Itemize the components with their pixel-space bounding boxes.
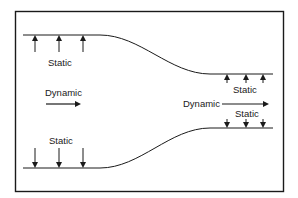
static-pressure-arrows-upper-right — [227, 77, 263, 83]
lower-wall-line — [23, 128, 273, 168]
diagram-frame — [16, 12, 284, 192]
static-pressure-arrows-lower-left — [35, 148, 83, 165]
static-label-lower-right: Static — [235, 108, 259, 119]
dynamic-label-right: Dynamic — [183, 98, 220, 109]
upper-wall-line — [23, 35, 273, 74]
static-label-upper-right: Static — [233, 84, 257, 95]
static-pressure-arrows-upper-left — [35, 38, 83, 52]
static-label-lower-left: Static — [49, 135, 73, 146]
venturi-diagram: Static Dynamic Static Dynamic Static Sta… — [0, 0, 298, 198]
static-pressure-arrows-lower-right — [227, 119, 263, 125]
dynamic-label-left: Dynamic — [45, 87, 82, 98]
static-label-upper-left: Static — [48, 57, 72, 68]
